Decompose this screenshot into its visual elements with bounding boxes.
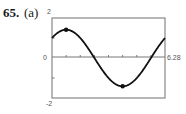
y-origin-label: 0	[43, 54, 47, 61]
relative-minimum-point	[120, 84, 124, 88]
function-graph: 2 -2 0 6.28	[0, 0, 186, 114]
function-curve	[52, 30, 165, 87]
relative-maximum-point	[64, 28, 68, 32]
x-max-label: 6.28	[167, 54, 181, 61]
y-min-label: -2	[46, 100, 52, 107]
y-max-label: 2	[47, 8, 51, 15]
